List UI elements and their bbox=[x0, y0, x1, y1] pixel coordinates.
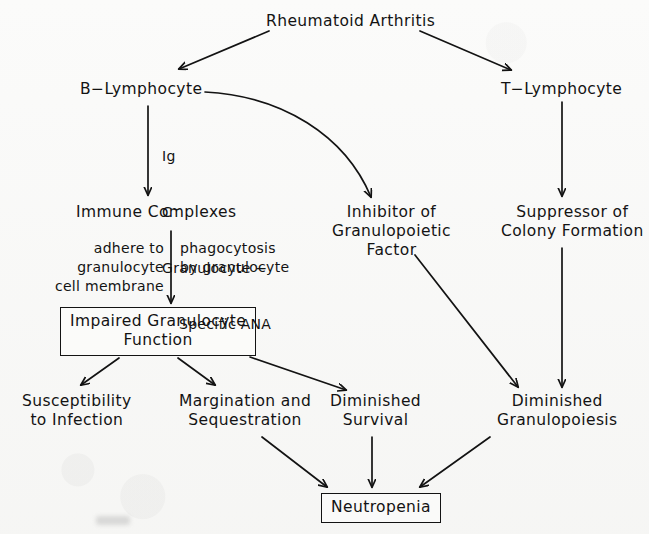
flowchart-page: Rheumatoid Arthritis B−Lymphocyte T−Lymp… bbox=[0, 0, 649, 534]
annotation-mediator-ig: Ig bbox=[162, 147, 271, 166]
annotation-mediator-complement: C− bbox=[162, 203, 271, 222]
annotation-mediator-specific-ana: Specific ANA bbox=[162, 315, 271, 334]
node-b-lymphocyte: B−Lymphocyte bbox=[80, 80, 202, 99]
annotation-mediator-complement-base: C bbox=[162, 204, 172, 220]
edge-diminished-granulopoiesis-to-neutropenia bbox=[420, 437, 490, 487]
node-diminished-survival: Diminished Survival bbox=[330, 392, 421, 430]
annotation-phagocytosis-by-granulocyte: phagocytosis by granulocyte bbox=[180, 239, 289, 277]
node-margination-and-sequestration: Margination and Sequestration bbox=[179, 392, 311, 430]
edge-ra-to-b-lymphocyte bbox=[179, 31, 269, 69]
node-neutropenia: Neutropenia bbox=[321, 493, 441, 523]
node-susceptibility-to-infection: Susceptibility to Infection bbox=[22, 392, 132, 430]
node-inhibitor-of-granulopoietic-factor: Inhibitor of Granulopoietic Factor bbox=[332, 203, 451, 260]
node-t-lymphocyte: T−Lymphocyte bbox=[501, 80, 622, 99]
edge-ra-to-t-lymphocyte bbox=[420, 31, 511, 70]
annotation-mediator-complement-superscript: − bbox=[172, 204, 180, 215]
node-rheumatoid-arthritis: Rheumatoid Arthritis bbox=[266, 12, 435, 31]
edge-margination-to-neutropenia bbox=[262, 437, 327, 487]
node-diminished-granulopoiesis: Diminished Granulopoiesis bbox=[497, 392, 618, 430]
node-suppressor-of-colony-formation: Suppressor of Colony Formation bbox=[501, 203, 644, 241]
edge-inhibitor-to-diminished-granulopoiesis bbox=[415, 255, 518, 387]
annotation-adhere-to-granulocyte-cell-membrane: adhere to granulocyte cell membrane bbox=[16, 239, 164, 295]
edge-impaired-to-susceptibility bbox=[81, 358, 119, 385]
